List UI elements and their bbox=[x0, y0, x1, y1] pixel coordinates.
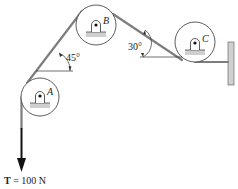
pulley-label-c: C bbox=[202, 33, 209, 44]
axle bbox=[38, 94, 41, 97]
angle-30: 30° bbox=[128, 30, 182, 57]
force-value: 100 N bbox=[21, 175, 46, 186]
angle-label-30: 30° bbox=[128, 41, 142, 52]
pulley-diagram: A B C 45° 30° T = 100 N bbox=[0, 0, 238, 189]
pulley-a: A bbox=[21, 78, 59, 116]
force-arrow bbox=[17, 128, 26, 172]
axle bbox=[193, 41, 196, 44]
force-label: T = 100 N bbox=[4, 175, 46, 186]
pulley-label-b: B bbox=[103, 15, 109, 26]
wall bbox=[228, 42, 234, 85]
angle-label-45: 45° bbox=[66, 52, 80, 63]
support-base bbox=[30, 103, 50, 108]
pulley-c: C bbox=[175, 22, 215, 62]
support-base bbox=[185, 50, 205, 55]
axle bbox=[94, 23, 97, 26]
pulley-b: B bbox=[76, 5, 116, 45]
support-base bbox=[86, 32, 106, 37]
pulley-label-a: A bbox=[46, 86, 54, 97]
